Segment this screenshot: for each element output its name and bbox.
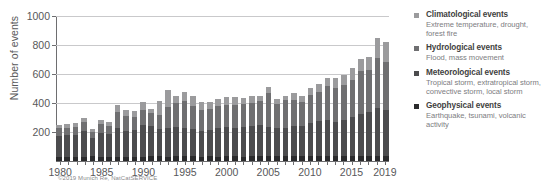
- bar-segment-meteorological: [199, 131, 205, 156]
- x-tick-mark-1999: [218, 162, 219, 165]
- bar-segment-hydrological: [165, 107, 171, 127]
- legend-swatch-icon: [414, 46, 419, 51]
- bar-segment-hydrological: [132, 117, 138, 130]
- x-tick-mark-1994: [177, 162, 178, 165]
- x-tick-mark-2002: [243, 162, 244, 165]
- bar-1999: [215, 99, 221, 161]
- bar-2005: [266, 87, 272, 161]
- bar-segment-hydrological: [140, 110, 146, 126]
- bar-segment-hydrological: [106, 126, 112, 135]
- bar-segment-climatological: [182, 92, 188, 101]
- bar-segment-meteorological: [90, 138, 96, 155]
- bar-segment-hydrological: [64, 128, 70, 135]
- legend-swatch-icon: [414, 13, 419, 18]
- bar-segment-meteorological: [358, 114, 364, 156]
- bar-segment-hydrological: [383, 62, 389, 110]
- bar-segment-meteorological: [165, 128, 171, 157]
- bar-1998: [207, 102, 213, 161]
- bar-segment-hydrological: [215, 106, 221, 128]
- bar-segment-hydrological: [190, 106, 196, 129]
- bar-segment-hydrological: [81, 122, 87, 131]
- legend-title: Climatological events: [426, 10, 546, 20]
- bar-segment-hydrological: [299, 102, 305, 126]
- bar-segment-meteorological: [232, 128, 238, 156]
- bar-segment-meteorological: [291, 126, 297, 156]
- y-tick-mark-400: [52, 103, 56, 104]
- bar-segment-geophysical: [308, 156, 314, 162]
- x-tick-mark-2006: [277, 162, 278, 165]
- x-tick-mark-2015: [352, 162, 353, 165]
- x-tick-mark-1985: [102, 162, 103, 165]
- x-tick-mark-1982: [77, 162, 78, 165]
- x-tick-mark-2014: [343, 162, 344, 165]
- bar-1980: [56, 125, 62, 161]
- legend-title: Geophysical events: [426, 101, 546, 111]
- bar-segment-hydrological: [224, 105, 230, 127]
- x-tick-mark-1989: [135, 162, 136, 165]
- y-tick-mark-800: [52, 45, 56, 46]
- legend-entry-meteorological[interactable]: Meteorological eventsTropical storm, ext…: [414, 68, 546, 96]
- chart-panel: Number of events 2004006008001000 198019…: [0, 0, 400, 196]
- legend-entry-hydrological[interactable]: Hydrological eventsFlood, mass movement: [414, 43, 546, 62]
- bar-1986: [106, 122, 112, 161]
- bar-segment-meteorological: [148, 126, 154, 156]
- bar-segment-geophysical: [232, 156, 238, 161]
- bar-segment-geophysical: [366, 156, 372, 162]
- bar-segment-geophysical: [115, 157, 121, 161]
- bar-1991: [148, 109, 154, 161]
- bar-2006: [274, 99, 280, 161]
- bar-1997: [199, 102, 205, 161]
- legend-swatch-icon: [414, 104, 419, 109]
- x-tick-label-2000: 2000: [215, 166, 238, 178]
- bar-segment-geophysical: [325, 156, 331, 161]
- bar-segment-meteorological: [106, 134, 112, 156]
- x-tick-mark-1993: [168, 162, 169, 165]
- legend-description: Extreme temperature, drought, forest fir…: [426, 20, 546, 38]
- plot-area: [56, 16, 389, 161]
- legend-entry-geophysical[interactable]: Geophysical eventsEarthquake, tsunami, v…: [414, 101, 546, 129]
- x-tick-mark-2012: [327, 162, 328, 165]
- bar-2011: [316, 84, 322, 161]
- bar-1983: [81, 118, 87, 161]
- bar-series-group: [56, 16, 389, 161]
- bar-segment-geophysical: [90, 156, 96, 162]
- x-tick-mark-2007: [285, 162, 286, 165]
- bar-segment-meteorological: [123, 131, 129, 157]
- y-tick-label-200: 200: [10, 127, 50, 138]
- x-tick-mark-1997: [202, 162, 203, 165]
- x-tick-mark-2009: [302, 162, 303, 165]
- bar-1985: [98, 120, 104, 161]
- bar-segment-hydrological: [173, 103, 179, 127]
- bar-segment-geophysical: [190, 156, 196, 161]
- x-tick-mark-1996: [193, 162, 194, 165]
- bar-segment-climatological: [157, 101, 163, 115]
- legend-entry-climatological[interactable]: Climatological eventsExtreme temperature…: [414, 10, 546, 38]
- bar-2004: [257, 96, 263, 161]
- bar-segment-hydrological: [115, 112, 121, 128]
- bar-segment-meteorological: [325, 120, 331, 156]
- bar-segment-climatological: [173, 96, 179, 103]
- bar-segment-geophysical: [106, 157, 112, 161]
- x-tick-mark-2003: [252, 162, 253, 165]
- x-tick-mark-1987: [118, 162, 119, 165]
- y-tick-mark-200: [52, 132, 56, 133]
- x-tick-mark-2019: [385, 162, 386, 165]
- bar-segment-geophysical: [98, 157, 104, 161]
- y-tick-mark-600: [52, 74, 56, 75]
- bar-segment-geophysical: [215, 157, 221, 161]
- bar-segment-geophysical: [333, 156, 339, 161]
- x-tick-mark-1990: [143, 162, 144, 165]
- bar-segment-hydrological: [73, 127, 79, 135]
- bar-segment-hydrological: [283, 100, 289, 128]
- bar-1984: [90, 129, 96, 161]
- bar-segment-climatological: [358, 59, 364, 71]
- bar-segment-climatological: [316, 84, 322, 92]
- y-tick-label-400: 400: [10, 98, 50, 109]
- bar-segment-hydrological: [375, 58, 381, 107]
- bar-segment-meteorological: [375, 108, 381, 156]
- bar-segment-meteorological: [308, 123, 314, 156]
- bar-segment-hydrological: [56, 128, 62, 135]
- bar-segment-hydrological: [207, 109, 213, 130]
- legend-swatch-icon: [414, 71, 419, 76]
- bar-segment-climatological: [140, 102, 146, 109]
